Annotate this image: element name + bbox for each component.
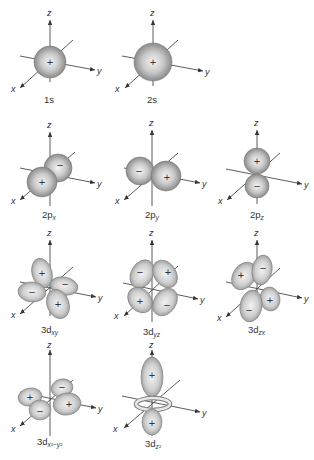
x-axis-label: x (217, 196, 223, 206)
phase-sign: − (62, 278, 68, 290)
orbital-3dzx: z y x + − + − 3dzx (216, 228, 309, 336)
phase-sign: − (29, 286, 35, 298)
z-axis-label: z (148, 228, 154, 238)
y-axis-label: y (97, 293, 103, 303)
phase-sign: + (165, 266, 171, 278)
x-axis-label: x (10, 310, 16, 320)
phase-sign: + (150, 56, 156, 68)
phase-sign: + (39, 176, 45, 188)
x-axis-label: x (114, 84, 120, 94)
orbital-1s: z y x + 1s (10, 8, 102, 105)
z-axis-label: z (46, 340, 52, 350)
y-axis-label: y (96, 66, 102, 76)
phase-sign: + (39, 267, 45, 279)
phase-sign: − (164, 299, 170, 311)
phase-sign: − (137, 266, 143, 278)
phase-sign: + (164, 171, 170, 183)
y-axis-label: y (303, 180, 309, 190)
orbital-label-3dyz: 3dyz (143, 326, 161, 339)
z-axis-label: z (46, 228, 52, 238)
phase-sign: − (136, 165, 142, 177)
orbital-label-2px: 2px (42, 209, 57, 221)
phase-sign: + (137, 295, 143, 307)
x-axis-label: x (10, 196, 16, 206)
x-axis-label: x (112, 424, 118, 434)
orbital-label-3dx2-y2: 3dx²−y² (37, 436, 63, 449)
phase-sign: − (246, 304, 252, 316)
phase-sign: − (59, 381, 65, 393)
y-axis-label: y (201, 408, 207, 418)
x-axis-label: x (216, 313, 222, 323)
phase-sign: + (267, 294, 273, 306)
orbital-3dyz: z y x − + + − 3dyz (113, 228, 205, 339)
phase-sign: − (260, 262, 266, 274)
z-axis-label: z (46, 120, 52, 130)
orbital-label-3dxy: 3dxy (41, 324, 59, 337)
z-axis-label: z (253, 228, 259, 238)
orbital-3dxy: z y x + − − + 3dxy (10, 228, 103, 337)
y-axis-label: y (303, 294, 309, 304)
y-axis-label: y (204, 67, 210, 77)
phase-sign: + (149, 417, 155, 429)
phase-sign: + (238, 269, 244, 281)
z-axis-label: z (46, 8, 52, 18)
orbital-2pz: z y x + − 2pz (217, 118, 309, 221)
phase-sign: + (66, 398, 72, 410)
orbital-label-2s: 2s (147, 94, 157, 105)
z-axis-label: z (253, 118, 259, 128)
orbital-label-3dz2: 3dz² (145, 438, 162, 450)
orbital-3dx2-y2: z y x + − − + 3dx²−y² (10, 340, 103, 449)
phase-sign: + (27, 391, 33, 403)
orbital-label-2pz: 2pz (250, 209, 265, 221)
orbital-label-2py: 2py (145, 209, 160, 222)
phase-sign: − (254, 180, 260, 192)
x-axis-label: x (10, 424, 16, 434)
z-axis-label: z (148, 340, 154, 350)
phase-sign: + (55, 298, 61, 310)
orbital-label-1s: 1s (44, 94, 54, 105)
y-axis-label: y (96, 179, 102, 189)
orbital-3dz2: z y x + + 3dz² (112, 340, 207, 450)
orbital-2py: z y x − + 2py (114, 118, 207, 222)
phase-sign: − (37, 405, 43, 417)
orbital-2px: z y x − + 2px (10, 120, 102, 221)
orbital-2s: z y x + 2s (114, 8, 210, 105)
z-axis-label: z (148, 118, 154, 128)
phase-sign: + (254, 155, 260, 167)
orbital-label-3dzx: 3dzx (248, 324, 266, 336)
orbital-diagram: z y x + 1s z y x + 2s z y x − (0, 0, 314, 460)
phase-sign: + (149, 369, 155, 381)
z-axis-label: z (149, 8, 155, 18)
y-axis-label: y (199, 295, 205, 305)
y-axis-label: y (97, 404, 103, 414)
phase-sign: + (47, 56, 53, 68)
x-axis-label: x (113, 311, 119, 321)
phase-sign: − (57, 159, 63, 171)
x-axis-label: x (10, 84, 16, 94)
x-axis-label: x (114, 196, 120, 206)
y-axis-label: y (201, 179, 207, 189)
